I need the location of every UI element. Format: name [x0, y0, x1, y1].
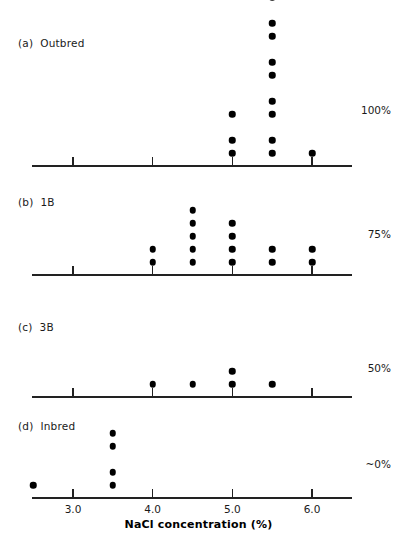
x-axis-line: [32, 497, 352, 499]
x-tick-label: 5.0: [224, 503, 241, 515]
panel-tag: (d): [18, 420, 33, 432]
data-point: [189, 259, 196, 266]
panel-tag: (a): [18, 37, 33, 49]
x-tick-6.0: [311, 489, 313, 498]
panel-name: 1B: [40, 196, 54, 208]
x-axis-line: [32, 396, 352, 398]
data-point: [110, 443, 117, 450]
x-axis-line: [32, 274, 352, 276]
x-axis-line: [32, 165, 352, 167]
x-axis-title: NaCl concentration (%): [0, 518, 397, 531]
panel-name: Inbred: [40, 420, 75, 432]
x-tick-label: 3.0: [65, 503, 82, 515]
panel-annotation: 100%: [361, 104, 391, 116]
panel-annotation: ~0%: [366, 458, 391, 470]
data-point: [269, 381, 276, 388]
data-point: [269, 246, 276, 253]
data-point: [189, 233, 196, 240]
x-tick-4.0: [152, 157, 154, 166]
x-tick-6.0: [311, 157, 313, 166]
data-point: [269, 150, 276, 157]
x-tick-4.0: [152, 266, 154, 275]
panel-annotation: 50%: [368, 362, 391, 374]
data-point: [229, 381, 236, 388]
panel-tag: (c): [18, 321, 33, 333]
data-point: [229, 150, 236, 157]
panel-annotation: 75%: [368, 228, 391, 240]
x-tick-5.0: [232, 266, 234, 275]
data-point: [269, 111, 276, 118]
data-point: [229, 111, 236, 118]
x-tick-5.0: [232, 388, 234, 397]
x-tick-label: 6.0: [304, 503, 321, 515]
x-tick-3.0: [72, 266, 74, 275]
x-tick-5.0: [232, 489, 234, 498]
data-point: [110, 482, 117, 489]
x-tick-6.0: [311, 388, 313, 397]
data-point: [309, 259, 316, 266]
data-point: [269, 59, 276, 66]
data-point: [30, 482, 37, 489]
x-tick-4.0: [152, 388, 154, 397]
x-tick-3.0: [72, 157, 74, 166]
data-point: [189, 207, 196, 214]
data-point: [269, 72, 276, 79]
x-tick-6.0: [311, 266, 313, 275]
data-point: [189, 220, 196, 227]
panel-name: 3B: [40, 321, 54, 333]
dot-plot-figure: (a)Outbred100%(b)1B75%(c)3B50%(d)Inbred~…: [0, 0, 397, 545]
panel-name: Outbred: [40, 37, 84, 49]
data-point: [269, 98, 276, 105]
data-point: [189, 381, 196, 388]
data-point: [269, 20, 276, 27]
data-point: [269, 33, 276, 40]
data-point: [110, 469, 117, 476]
data-point: [269, 259, 276, 266]
data-point: [229, 233, 236, 240]
x-tick-5.0: [232, 157, 234, 166]
data-point: [149, 381, 156, 388]
panel-tag: (b): [18, 196, 33, 208]
data-point: [229, 246, 236, 253]
x-tick-label: 4.0: [144, 503, 161, 515]
data-point: [149, 246, 156, 253]
x-tick-4.0: [152, 489, 154, 498]
panel-label: (b)1B: [18, 196, 55, 208]
data-point: [229, 259, 236, 266]
data-point: [309, 150, 316, 157]
data-point: [229, 220, 236, 227]
data-point: [149, 259, 156, 266]
data-point: [229, 368, 236, 375]
data-point: [110, 430, 117, 437]
data-point: [309, 246, 316, 253]
panel-label: (a)Outbred: [18, 37, 85, 49]
panel-label: (c)3B: [18, 321, 54, 333]
x-tick-3.0: [72, 388, 74, 397]
x-tick-3.0: [72, 489, 74, 498]
data-point: [269, 137, 276, 144]
panel-label: (d)Inbred: [18, 420, 75, 432]
data-point: [189, 246, 196, 253]
data-point: [229, 137, 236, 144]
